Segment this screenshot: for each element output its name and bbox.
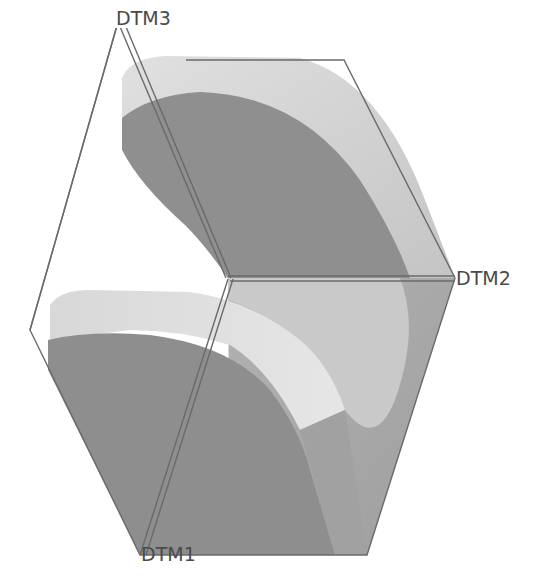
dtm3-label[interactable]: DTM3 — [116, 7, 171, 29]
dtm1-label[interactable]: DTM1 — [141, 543, 196, 565]
cad-viewport[interactable]: DTM3 DTM2 DTM1 — [0, 0, 553, 578]
part-upper-body[interactable] — [122, 56, 455, 278]
dtm2-label[interactable]: DTM2 — [456, 267, 511, 289]
